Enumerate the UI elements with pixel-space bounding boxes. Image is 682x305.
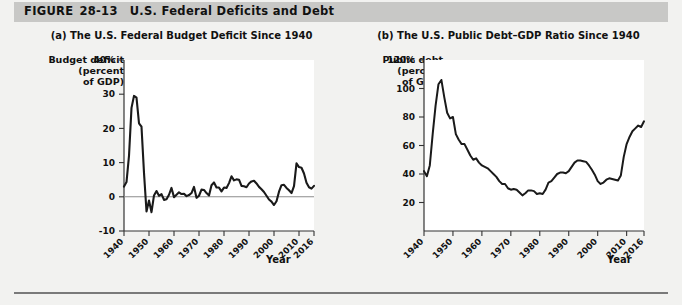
x-tick-label: 1980 xyxy=(201,236,225,260)
x-tick-label: 1950 xyxy=(430,236,454,260)
figure-title: U.S. Federal Deficits and Debt xyxy=(130,4,335,18)
y-tick-label: 120% xyxy=(387,55,415,65)
x-tick-label: 1990 xyxy=(226,236,250,260)
y-tick-label: 0 xyxy=(109,192,115,202)
y-tick-label: 20 xyxy=(402,198,415,208)
y-tick-label: 30 xyxy=(102,89,115,99)
figure-number: 28-13 xyxy=(79,4,117,18)
y-tick-label: 80 xyxy=(402,112,415,122)
figure-header-text: FIGURE28-13U.S. Federal Deficits and Deb… xyxy=(24,4,334,18)
panel-a-plot: 40%3020100-10194019501960197019801990200… xyxy=(14,26,349,276)
figure-bottom-rule xyxy=(14,292,668,294)
x-tick-label: 1940 xyxy=(101,236,125,260)
x-tick-label: 1960 xyxy=(151,236,175,260)
x-tick-label: 2016 xyxy=(621,236,645,260)
y-tick-label: 100 xyxy=(396,84,415,94)
panel-a-budget-deficit: (a) The U.S. Federal Budget Deficit Sinc… xyxy=(14,26,349,276)
x-tick-label: 1980 xyxy=(517,236,541,260)
figure-label: FIGURE xyxy=(24,4,73,18)
y-tick-label: 40% xyxy=(93,55,115,65)
panel-b-public-debt: (b) The U.S. Public Debt–GDP Ratio Since… xyxy=(349,26,668,276)
y-tick-label: 10 xyxy=(102,158,115,168)
x-tick-label: 1950 xyxy=(126,236,150,260)
x-tick-label: 1970 xyxy=(176,236,200,260)
y-tick-label: 60 xyxy=(402,141,415,151)
x-tick-label: 1940 xyxy=(401,236,425,260)
x-tick-label: 1960 xyxy=(459,236,483,260)
y-tick-label: 20 xyxy=(102,124,115,134)
x-tick-label: 1970 xyxy=(488,236,512,260)
y-tick-label: -10 xyxy=(99,226,115,236)
y-tick-label: 40 xyxy=(402,169,415,179)
x-tick-label: 1990 xyxy=(546,236,570,260)
panel-b-plot: 120%100806040201940195019601970198019902… xyxy=(349,26,668,276)
x-tick-label: 2000 xyxy=(251,236,275,260)
x-tick-label: 2000 xyxy=(575,236,599,260)
figure-container: FIGURE28-13U.S. Federal Deficits and Deb… xyxy=(0,0,682,305)
